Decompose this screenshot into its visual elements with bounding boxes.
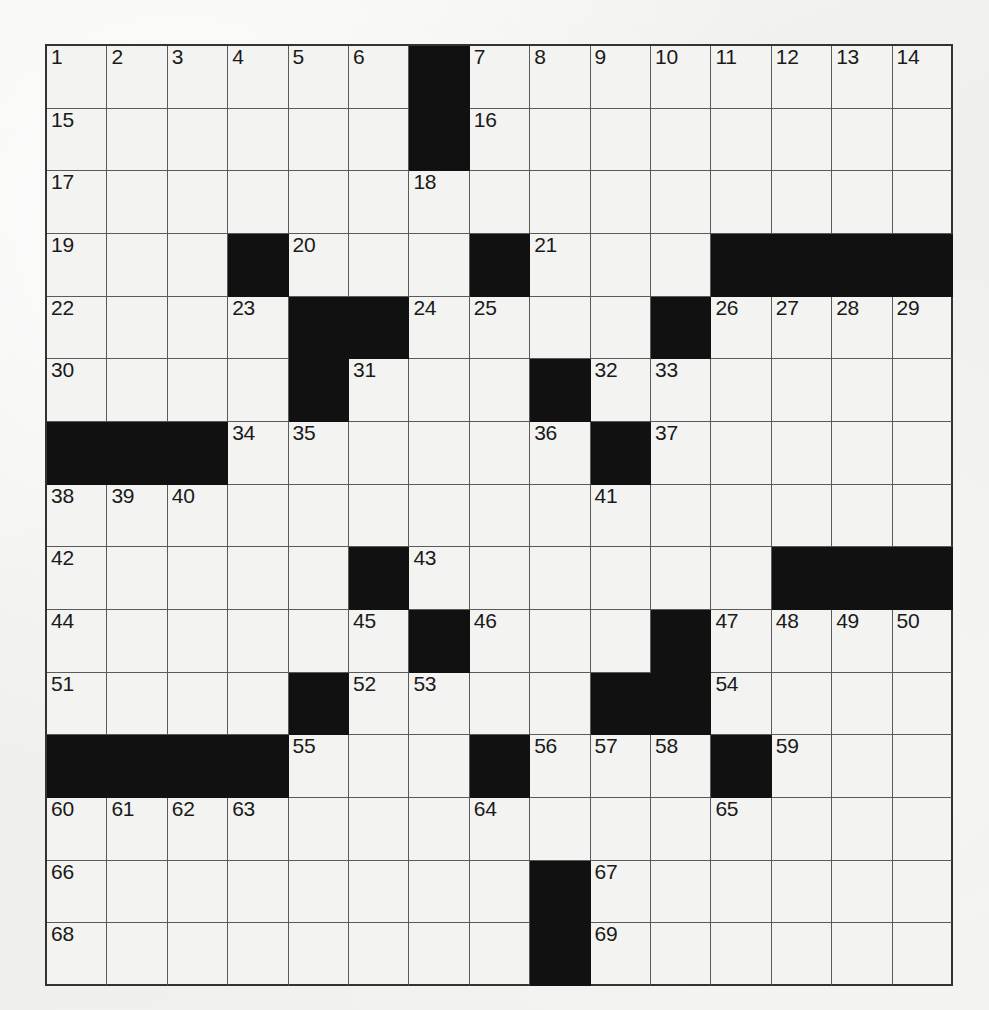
grid-cell[interactable] (228, 861, 288, 924)
grid-cell[interactable] (289, 109, 349, 172)
grid-cell[interactable] (832, 485, 892, 548)
grid-cell[interactable]: 10 (651, 46, 711, 109)
grid-cell[interactable]: 56 (530, 735, 590, 798)
grid-cell[interactable] (893, 673, 953, 736)
grid-cell[interactable]: 31 (349, 359, 409, 422)
grid-cell[interactable] (772, 673, 832, 736)
grid-cell[interactable]: 7 (470, 46, 530, 109)
grid-cell[interactable] (530, 673, 590, 736)
grid-cell[interactable]: 34 (228, 422, 288, 485)
grid-cell[interactable] (832, 171, 892, 234)
grid-cell[interactable]: 12 (772, 46, 832, 109)
grid-cell[interactable]: 49 (832, 610, 892, 673)
grid-cell[interactable]: 44 (47, 610, 107, 673)
grid-cell[interactable] (651, 109, 711, 172)
grid-cell[interactable] (832, 109, 892, 172)
grid-cell[interactable] (832, 861, 892, 924)
grid-cell[interactable] (228, 923, 288, 986)
grid-cell[interactable]: 57 (591, 735, 651, 798)
grid-cell[interactable]: 58 (651, 735, 711, 798)
grid-cell[interactable] (591, 610, 651, 673)
grid-cell[interactable] (107, 610, 167, 673)
grid-cell[interactable] (349, 234, 409, 297)
grid-cell[interactable] (772, 109, 832, 172)
grid-cell[interactable] (107, 861, 167, 924)
grid-cell[interactable] (711, 861, 771, 924)
grid-cell[interactable] (168, 359, 228, 422)
grid-cell[interactable]: 41 (591, 485, 651, 548)
grid-cell[interactable] (832, 359, 892, 422)
grid-cell[interactable]: 33 (651, 359, 711, 422)
grid-cell[interactable] (107, 359, 167, 422)
grid-cell[interactable] (349, 923, 409, 986)
grid-cell[interactable]: 36 (530, 422, 590, 485)
grid-cell[interactable] (772, 485, 832, 548)
grid-cell[interactable] (349, 798, 409, 861)
grid-cell[interactable]: 38 (47, 485, 107, 548)
grid-cell[interactable]: 52 (349, 673, 409, 736)
grid-cell[interactable] (893, 798, 953, 861)
grid-cell[interactable]: 6 (349, 46, 409, 109)
grid-cell[interactable]: 24 (409, 297, 469, 360)
grid-cell[interactable] (168, 297, 228, 360)
grid-cell[interactable] (349, 861, 409, 924)
grid-cell[interactable] (228, 359, 288, 422)
grid-cell[interactable]: 4 (228, 46, 288, 109)
grid-cell[interactable] (651, 547, 711, 610)
grid-cell[interactable] (591, 297, 651, 360)
grid-cell[interactable]: 23 (228, 297, 288, 360)
grid-cell[interactable] (893, 923, 953, 986)
grid-cell[interactable]: 48 (772, 610, 832, 673)
grid-cell[interactable]: 28 (832, 297, 892, 360)
grid-cell[interactable]: 30 (47, 359, 107, 422)
grid-cell[interactable]: 43 (409, 547, 469, 610)
grid-cell[interactable] (168, 610, 228, 673)
grid-cell[interactable] (107, 171, 167, 234)
grid-cell[interactable]: 68 (47, 923, 107, 986)
grid-cell[interactable] (530, 171, 590, 234)
grid-cell[interactable] (289, 923, 349, 986)
grid-cell[interactable] (409, 485, 469, 548)
grid-cell[interactable] (832, 923, 892, 986)
grid-cell[interactable] (530, 547, 590, 610)
grid-cell[interactable] (711, 485, 771, 548)
grid-cell[interactable] (470, 422, 530, 485)
grid-cell[interactable] (772, 798, 832, 861)
grid-cell[interactable]: 17 (47, 171, 107, 234)
grid-cell[interactable] (832, 735, 892, 798)
grid-cell[interactable] (470, 923, 530, 986)
grid-cell[interactable]: 5 (289, 46, 349, 109)
grid-cell[interactable] (107, 109, 167, 172)
grid-cell[interactable] (409, 422, 469, 485)
grid-cell[interactable] (651, 171, 711, 234)
grid-cell[interactable] (651, 485, 711, 548)
grid-cell[interactable] (349, 422, 409, 485)
grid-cell[interactable]: 27 (772, 297, 832, 360)
grid-cell[interactable] (289, 861, 349, 924)
grid-cell[interactable]: 2 (107, 46, 167, 109)
grid-cell[interactable]: 37 (651, 422, 711, 485)
grid-cell[interactable] (289, 798, 349, 861)
grid-cell[interactable]: 9 (591, 46, 651, 109)
grid-cell[interactable] (591, 798, 651, 861)
grid-cell[interactable]: 25 (470, 297, 530, 360)
grid-cell[interactable] (470, 673, 530, 736)
grid-cell[interactable] (349, 109, 409, 172)
grid-cell[interactable] (893, 485, 953, 548)
grid-cell[interactable] (772, 861, 832, 924)
grid-cell[interactable]: 13 (832, 46, 892, 109)
grid-cell[interactable]: 64 (470, 798, 530, 861)
grid-cell[interactable]: 54 (711, 673, 771, 736)
grid-cell[interactable]: 39 (107, 485, 167, 548)
grid-cell[interactable] (893, 861, 953, 924)
grid-cell[interactable] (470, 485, 530, 548)
grid-cell[interactable] (651, 798, 711, 861)
grid-cell[interactable] (530, 610, 590, 673)
grid-cell[interactable] (168, 673, 228, 736)
grid-cell[interactable] (168, 861, 228, 924)
grid-cell[interactable]: 47 (711, 610, 771, 673)
grid-cell[interactable]: 35 (289, 422, 349, 485)
grid-cell[interactable] (409, 735, 469, 798)
grid-cell[interactable] (651, 234, 711, 297)
grid-cell[interactable] (168, 109, 228, 172)
